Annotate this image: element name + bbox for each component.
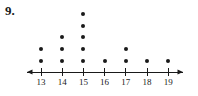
tick-label-16: 16 <box>100 78 109 87</box>
data-dot-17-1 <box>124 59 128 63</box>
data-dot-14-1 <box>60 59 64 63</box>
axis-arrow-right <box>178 69 184 74</box>
tick-label-13: 13 <box>37 78 46 87</box>
tick-label-17: 17 <box>121 78 130 87</box>
data-dot-15-1 <box>81 59 85 63</box>
dot-plot-figure: 13141516171819 <box>0 0 198 96</box>
data-dot-19-1 <box>166 59 170 63</box>
tick-label-15: 15 <box>79 78 88 87</box>
data-dot-13-1 <box>39 59 43 63</box>
data-dot-17-2 <box>124 47 128 51</box>
data-dot-15-3 <box>81 35 85 39</box>
data-dot-16-1 <box>103 59 107 63</box>
data-dot-14-3 <box>60 35 64 39</box>
data-dot-13-2 <box>39 47 43 51</box>
tick-label-19: 19 <box>164 78 173 87</box>
data-dot-18-1 <box>145 59 149 63</box>
data-dot-15-5 <box>81 12 85 16</box>
tick-label-18: 18 <box>143 78 152 87</box>
data-dot-15-2 <box>81 47 85 51</box>
axis-arrow-left <box>27 69 33 74</box>
tick-label-14: 14 <box>58 78 67 87</box>
data-dot-15-4 <box>81 24 85 28</box>
data-dot-14-2 <box>60 47 64 51</box>
